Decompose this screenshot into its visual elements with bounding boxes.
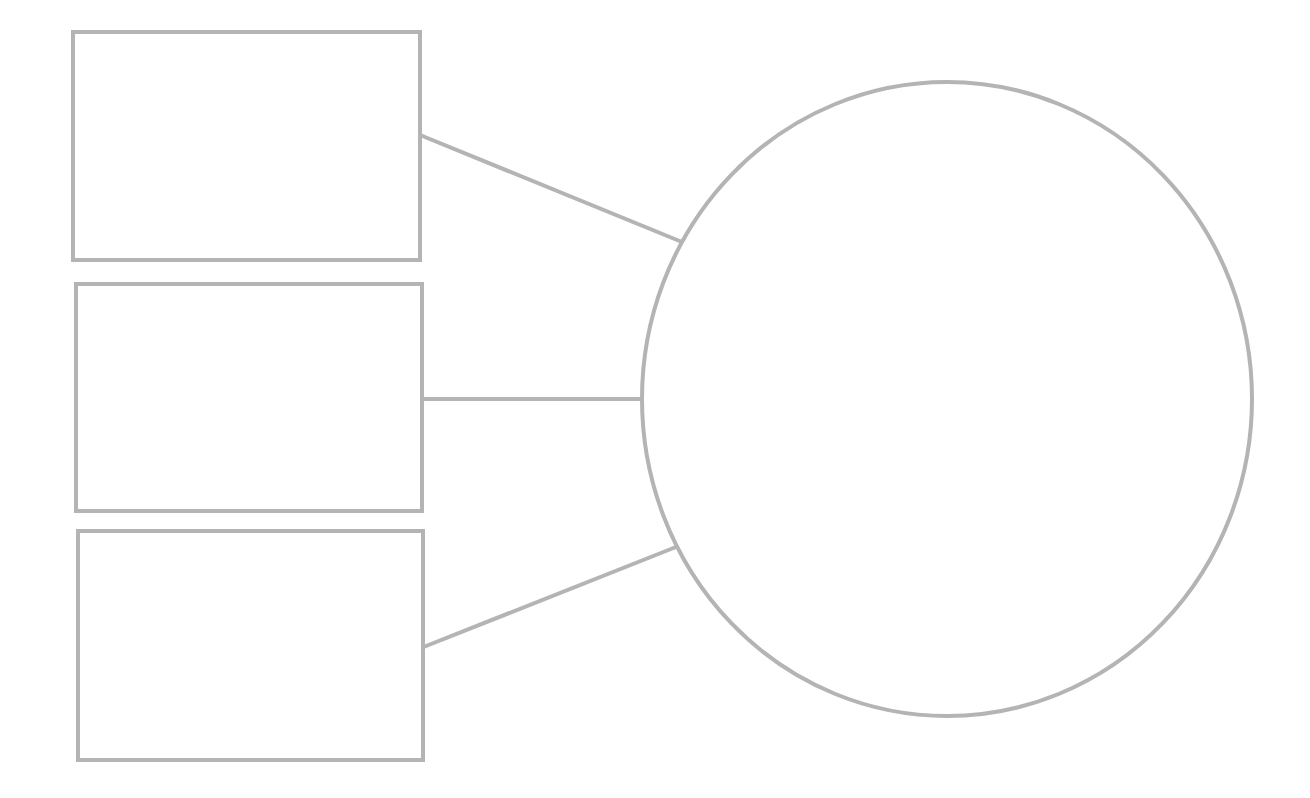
side-box-1 [73,32,420,260]
side-box-3 [78,531,423,760]
diagram-svg [0,0,1310,798]
central-node-group [642,82,1252,716]
connector-line-3 [421,547,676,648]
central-circle [642,82,1252,716]
connector-line-1 [420,135,682,242]
side-box-2 [76,284,422,511]
diagram-canvas [0,0,1310,798]
side-nodes-group [73,32,423,760]
